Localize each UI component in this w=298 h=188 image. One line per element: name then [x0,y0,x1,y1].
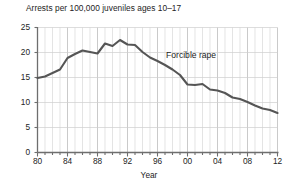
x-axis-tick-label: 04 [206,156,230,166]
x-axis-tick-label: 88 [86,156,110,166]
x-axis-title: Year [0,170,298,180]
y-axis-tick-label: 10 [8,97,30,107]
x-axis-tick-label: 80 [26,156,50,166]
x-axis-tick-label: 08 [236,156,260,166]
x-axis-tick-label: 12 [266,156,290,166]
y-axis-tick-label: 5 [8,122,30,132]
x-axis-tick-label: 92 [116,156,140,166]
y-axis-tick-label: 15 [8,72,30,82]
chart-container: Arrests per 100,000 juveniles ages 10–17… [0,0,298,188]
x-axis-tick-label: 96 [146,156,170,166]
x-axis-tick-label: 84 [56,156,80,166]
y-axis-tick-label: 20 [8,47,30,57]
series-annotation-forcible-rape: Forcible rape [166,50,216,60]
x-axis-tick-label: 00 [176,156,200,166]
y-axis-tick-label: 25 [8,22,30,32]
